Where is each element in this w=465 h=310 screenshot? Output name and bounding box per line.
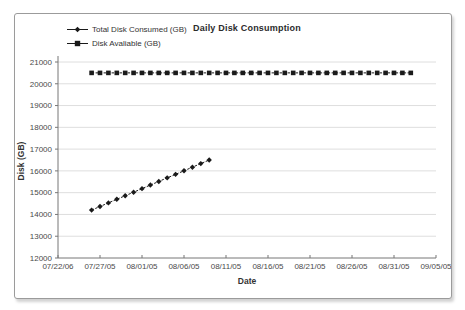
svg-text:16000: 16000 <box>30 167 53 176</box>
svg-text:08/01/05: 08/01/05 <box>126 262 158 271</box>
svg-text:17000: 17000 <box>30 145 53 154</box>
svg-text:13000: 13000 <box>30 232 53 241</box>
svg-text:18000: 18000 <box>30 123 53 132</box>
svg-text:08/16/05: 08/16/05 <box>252 262 284 271</box>
y-axis-title: Disk (GB) <box>16 131 26 191</box>
svg-text:07/27/05: 07/27/05 <box>84 262 116 271</box>
svg-text:08/21/05: 08/21/05 <box>294 262 326 271</box>
svg-text:08/11/05: 08/11/05 <box>211 262 242 271</box>
svg-text:08/26/05: 08/26/05 <box>336 262 368 271</box>
svg-text:08/31/05: 08/31/05 <box>378 262 410 271</box>
plot-area: 1200013000140001500016000170001800019000… <box>15 14 451 298</box>
svg-text:20000: 20000 <box>30 80 53 89</box>
svg-text:19000: 19000 <box>30 101 53 110</box>
svg-text:07/22/06: 07/22/06 <box>42 262 74 271</box>
svg-text:08/06/05: 08/06/05 <box>168 262 200 271</box>
svg-text:14000: 14000 <box>30 210 53 219</box>
chart-panel: Daily Disk Consumption Total Disk Consum… <box>14 13 452 299</box>
svg-text:15000: 15000 <box>30 188 53 197</box>
svg-text:09/05/05: 09/05/05 <box>420 262 451 271</box>
svg-text:21000: 21000 <box>30 58 53 67</box>
x-axis-title: Date <box>147 276 347 286</box>
